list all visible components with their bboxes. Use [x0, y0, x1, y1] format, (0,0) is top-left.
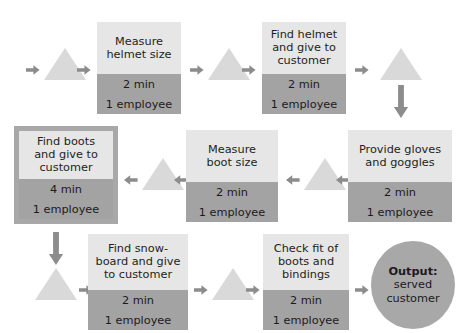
arrow-right-icon	[355, 64, 369, 76]
arrow-down-icon	[392, 85, 410, 119]
process-box-time: 2 min	[97, 74, 181, 95]
process-box-time: 2 min	[348, 182, 452, 203]
process-box-find-helmet: Find helmetand give tocustomer 2 min 1 e…	[262, 22, 346, 114]
process-box-title: Find helmetand give tocustomer	[262, 22, 346, 74]
process-box-find-boots: Find bootsand give tocustomer 4 min 1 em…	[14, 126, 118, 224]
process-box-time: 2 min	[263, 290, 349, 311]
arrow-right-icon	[77, 64, 91, 76]
output-label-line3: customer	[386, 292, 439, 306]
arrow-left-icon	[124, 174, 138, 186]
arrow-left-icon	[286, 174, 300, 186]
process-box-find-snowboard: Find snow-board and giveto customer 2 mi…	[88, 234, 188, 330]
arrow-right-icon	[194, 284, 208, 296]
process-box-time: 2 min	[186, 182, 278, 203]
process-box-check-fit: Check fit ofboots andbindings 2 min 1 em…	[263, 234, 349, 330]
process-box-provide-gloves-goggles: Provide glovesand goggles 2 min 1 employ…	[348, 130, 452, 222]
process-box-staff: 1 employee	[97, 95, 181, 114]
process-box-measure-boot-size: Measureboot size 2 min 1 employee	[186, 130, 278, 222]
process-box-time: 4 min	[19, 179, 113, 200]
process-box-title-text: Find snow-board and giveto customer	[95, 243, 180, 281]
arrow-down-icon	[47, 232, 65, 266]
arrow-right-icon	[26, 64, 40, 76]
process-box-measure-helmet-size: Measurehelmet size 2 min 1 employee	[97, 22, 181, 114]
output-node: Output: served customer	[371, 241, 455, 329]
triangle-icon	[35, 268, 77, 300]
process-box-staff: 1 employee	[262, 95, 346, 114]
process-box-title: Find snow-board and giveto customer	[88, 234, 188, 290]
process-box-title: Provide glovesand goggles	[348, 130, 452, 182]
arrow-right-icon	[246, 284, 260, 296]
process-box-title: Measureboot size	[186, 130, 278, 182]
process-box-title: Measurehelmet size	[97, 22, 181, 74]
process-box-title-text: Measurehelmet size	[106, 36, 171, 62]
arrow-right-icon	[355, 284, 369, 296]
arrow-right-icon	[242, 64, 256, 76]
process-box-title-text: Measureboot size	[207, 144, 258, 170]
process-box-title-text: Check fit ofboots andbindings	[274, 243, 338, 281]
process-box-time: 2 min	[88, 290, 188, 311]
output-label-strong: Output:	[388, 265, 437, 279]
process-box-staff: 1 employee	[348, 203, 452, 222]
process-box-staff: 1 employee	[19, 200, 113, 219]
process-box-staff: 1 employee	[263, 311, 349, 330]
process-box-staff: 1 employee	[186, 203, 278, 222]
process-box-time: 2 min	[262, 74, 346, 95]
output-label-line2: served	[394, 278, 432, 292]
process-box-staff: 1 employee	[88, 311, 188, 330]
process-box-title-text: Provide glovesand goggles	[359, 144, 441, 170]
process-box-title: Check fit ofboots andbindings	[263, 234, 349, 290]
process-box-title-text: Find bootsand give tocustomer	[34, 136, 98, 174]
triangle-icon	[380, 48, 422, 80]
arrow-right-icon	[190, 64, 204, 76]
process-flow-diagram: Measurehelmet size 2 min 1 employee Find…	[0, 0, 458, 333]
process-box-title-text: Find helmetand give tocustomer	[271, 29, 337, 67]
process-box-title: Find bootsand give tocustomer	[19, 131, 113, 179]
